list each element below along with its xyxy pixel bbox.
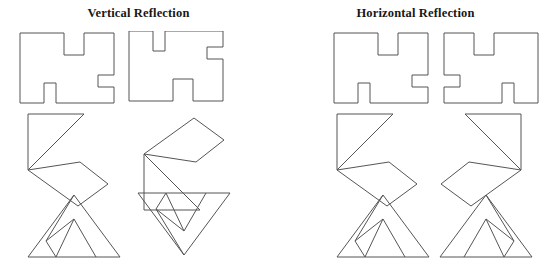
vertical-subdivided-triangle-reflected [136, 191, 234, 261]
shape-outline [334, 33, 428, 103]
interior-line-4 [184, 193, 206, 231]
interior-line-4 [464, 219, 486, 257]
interior-line-2 [46, 219, 74, 241]
interior-line-5 [504, 241, 514, 257]
horizontal-blocky-polygon-reflected [442, 31, 542, 107]
triangle-part [465, 114, 521, 170]
triangle-part [337, 114, 393, 170]
interior-line-1 [355, 195, 383, 241]
interior-line-3 [486, 219, 504, 257]
panel-title-vertical-reflection: Vertical Reflection [0, 6, 277, 21]
interior-line-1 [156, 209, 184, 255]
interior-line-5 [46, 241, 56, 257]
panel-vertical-reflection: Vertical Reflection [0, 0, 277, 269]
interior-line-2 [486, 219, 514, 241]
interior-line-5 [156, 193, 166, 209]
quadrilateral-part [144, 118, 224, 162]
interior-line-4 [74, 219, 96, 257]
horizontal-subdivided-triangle-reflected [438, 193, 536, 263]
interior-line-4 [383, 219, 405, 257]
triangle-outline [440, 195, 532, 257]
shape-outline [20, 33, 114, 103]
triangle-outline [337, 195, 429, 257]
panel-horizontal-reflection: Horizontal Reflection [277, 0, 554, 269]
vertical-subdivided-triangle-original [26, 193, 124, 263]
vertical-blocky-polygon-original [18, 31, 118, 107]
interior-line-1 [486, 195, 514, 241]
interior-line-3 [365, 219, 383, 257]
shape-outline [129, 31, 223, 101]
horizontal-blocky-polygon-original [332, 31, 432, 107]
interior-line-2 [355, 219, 383, 241]
interior-line-5 [355, 241, 365, 257]
triangle-outline [138, 193, 230, 255]
vertical-blocky-polygon-reflected [127, 31, 227, 107]
triangle-part [28, 114, 84, 170]
interior-line-2 [156, 209, 184, 231]
reflection-figure: Vertical Reflection [0, 0, 554, 269]
interior-line-3 [56, 219, 74, 257]
panel-title-horizontal-reflection: Horizontal Reflection [277, 6, 554, 21]
interior-line-1 [46, 195, 74, 241]
shape-outline [444, 33, 538, 103]
interior-line-3 [166, 193, 184, 231]
horizontal-subdivided-triangle-original [335, 193, 433, 263]
triangle-outline [28, 195, 120, 257]
